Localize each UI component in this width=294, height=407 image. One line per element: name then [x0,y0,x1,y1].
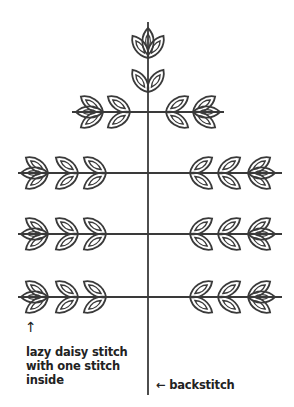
up-arrow-icon: ↑ [25,320,37,334]
lazy-daisy-label: lazy daisy stitch with one stitch inside [26,345,156,387]
backstitch-label: ← backstitch [156,378,234,392]
lazy-daisy-line-1: lazy daisy stitch [26,345,156,359]
lazy-daisy-line-3: inside [26,373,156,387]
lazy-daisy-line-2: with one stitch [26,359,156,373]
branch-row-4 [18,277,282,317]
branch-row-3 [18,214,282,254]
branch-row-2 [18,153,282,193]
